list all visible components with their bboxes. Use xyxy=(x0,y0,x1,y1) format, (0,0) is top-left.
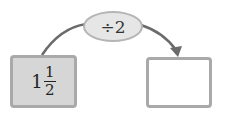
mixed-number: 1 1 2 xyxy=(13,58,74,105)
arrowhead-icon xyxy=(170,46,182,57)
fraction: 1 2 xyxy=(44,65,56,98)
operation-oval: ÷2 xyxy=(83,11,143,42)
numerator: 1 xyxy=(45,65,55,80)
operation-label: ÷2 xyxy=(100,17,125,37)
whole-part: 1 xyxy=(31,71,42,92)
denominator: 2 xyxy=(45,83,55,98)
output-box[interactable] xyxy=(146,57,212,108)
input-box: 1 1 2 xyxy=(10,55,77,108)
